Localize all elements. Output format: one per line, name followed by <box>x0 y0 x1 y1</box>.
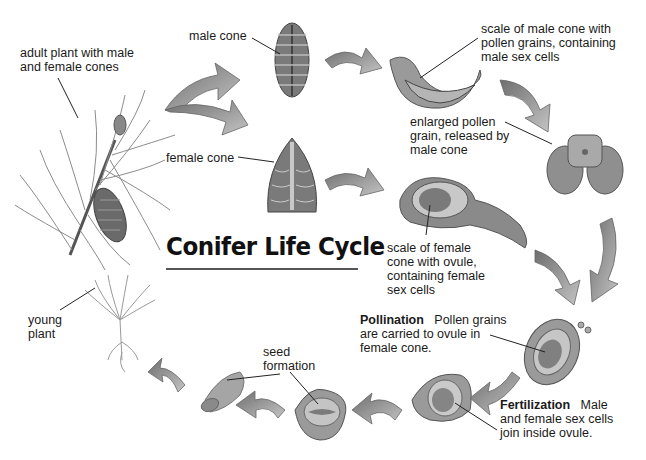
label-seed-formation: seed formation <box>263 345 315 373</box>
label-line: Pollen grains <box>434 313 506 327</box>
label-female-cone: female cone <box>166 151 234 165</box>
label-line: pollen grains, containing <box>481 36 616 50</box>
label-line: cone with ovule, <box>387 255 485 269</box>
label-line: young <box>28 313 62 327</box>
title-underline <box>166 268 358 270</box>
young-plant-illustration <box>60 275 155 372</box>
adult-plant-illustration <box>15 78 175 270</box>
male-scale-illustration <box>390 38 481 108</box>
label-line: male cone <box>410 143 509 157</box>
label-line: and female cones <box>20 60 134 74</box>
diagram-title: Conifer Life Cycle <box>166 232 385 261</box>
label-line: sex cells <box>387 283 485 297</box>
label-fertilization: Fertilization Male and female sex cells … <box>500 398 613 440</box>
label-pollen-grain: enlarged pollen grain, released by male … <box>410 115 509 157</box>
label-line: grain, released by <box>410 129 509 143</box>
fertilization-term: Fertilization <box>500 398 570 412</box>
label-line: containing female <box>387 269 485 283</box>
label-line: male sex cells <box>481 50 616 64</box>
label-line: scale of female <box>387 241 485 255</box>
arrow-icon <box>352 393 402 424</box>
label-line: adult plant with male <box>20 46 134 60</box>
label-line: and female sex cells <box>500 412 613 426</box>
label-pollination: Pollination Pollen grains are carried to… <box>360 313 507 355</box>
label-line: scale of male cone with <box>481 22 616 36</box>
label-male-cone: male cone <box>189 29 247 43</box>
pollen-grain-illustration <box>505 122 623 194</box>
pollination-term: Pollination <box>360 313 424 327</box>
arrow-icon <box>236 391 285 418</box>
seed-formation-illustration <box>290 372 346 440</box>
female-scale-illustration <box>400 178 527 248</box>
label-line: plant <box>28 327 62 341</box>
label-adult-plant: adult plant with male and female cones <box>20 46 134 74</box>
arrow-icon <box>590 218 618 302</box>
arrow-icon <box>535 250 580 305</box>
male-cone-illustration <box>252 23 309 97</box>
label-line: formation <box>263 359 315 373</box>
label-line: seed <box>263 345 315 359</box>
label-male-scale: scale of male cone with pollen grains, c… <box>481 22 616 64</box>
arrow-icon <box>325 168 384 196</box>
arrow-icon <box>148 358 185 392</box>
arrow-icon <box>325 48 382 74</box>
label-young-plant: young plant <box>28 313 62 341</box>
label-line: enlarged pollen <box>410 115 509 129</box>
female-cone-illustration <box>238 138 317 212</box>
label-line: female cone. <box>360 341 507 355</box>
label-female-scale: scale of female cone with ovule, contain… <box>387 241 485 297</box>
label-line: join inside ovule. <box>500 426 613 440</box>
label-line: are carried to ovule in <box>360 327 507 341</box>
label-line: Male <box>581 398 608 412</box>
